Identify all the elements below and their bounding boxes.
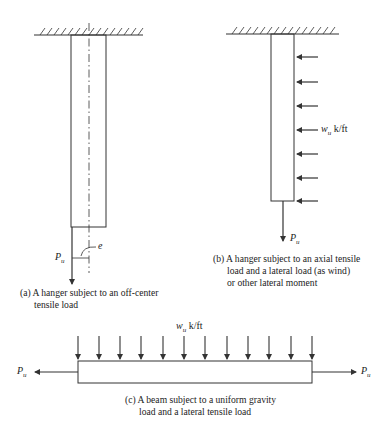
load-subscript: u [296,238,300,246]
fixed-support-hatch [34,28,143,35]
hanger-rod [71,35,106,227]
load-subscript: u [367,371,371,379]
caption-line: load and a lateral load (as wind) [213,265,360,277]
beam [78,361,312,383]
fixed-support-hatch [226,27,339,34]
load-subscript: u [23,371,27,379]
figure-a-hanger [34,23,143,284]
fig-c-right-load-label: Pu [361,365,371,379]
caption-line: load and a lateral tensile load [125,406,276,418]
caption-line: or other lateral moment [213,277,360,289]
fig-c-left-load-label: Pu [17,365,27,379]
figure-c-beam [35,336,356,383]
fig-a-caption: (a) A hanger subject to an off-center te… [20,287,158,311]
caption-line: (a) A hanger subject to an off-center [20,287,158,298]
fig-a-load-label: Pu [55,251,65,265]
fig-a-eccentricity-label: e [98,240,102,251]
load-subscript: u [61,257,65,265]
hanger-rod [271,34,294,201]
fig-c-distributed-load-label: wu k/ft [176,320,203,334]
dist-symbol: w [321,123,328,134]
fig-b-distributed-load-label: wu k/ft [321,123,348,137]
gravity-load-arrows [78,336,312,359]
fig-b-load-label: Pu [290,232,300,246]
dist-symbol: w [176,320,183,331]
dist-unit: k/ft [331,123,347,134]
fig-b-caption: (b) A hanger subject to an axial tensile… [213,253,360,289]
diagram-canvas [0,0,389,430]
fig-c-caption: (c) A beam subject to a uniform gravity … [125,394,276,418]
lateral-load-arrows [297,57,318,201]
caption-line: (b) A hanger subject to an axial tensile [213,253,360,264]
caption-line: (c) A beam subject to a uniform gravity [125,394,276,405]
caption-line: tensile load [20,299,158,311]
eccentricity-leader [81,247,96,256]
dist-unit: k/ft [186,320,202,331]
